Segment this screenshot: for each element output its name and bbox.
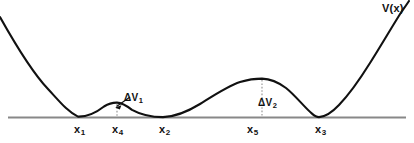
tick-subscript-x4: 4 <box>118 128 123 137</box>
axis-label-vx: V(x) <box>382 3 404 14</box>
axis-tick-label-x1: x1 <box>74 124 85 137</box>
axis-tick-label-x5: x5 <box>247 124 258 137</box>
barrier-subscript-dv1: 1 <box>138 96 143 105</box>
tick-subscript-x1: 1 <box>80 128 85 137</box>
tick-subscript-x2: 2 <box>165 128 170 137</box>
potential-curve-plot <box>0 0 414 143</box>
axis-tick-label-x2: x2 <box>159 124 170 137</box>
tick-subscript-x5: 5 <box>253 128 258 137</box>
axis-tick-label-x4: x4 <box>112 124 123 137</box>
axis-tick-label-x3: x3 <box>315 124 326 137</box>
tick-subscript-x3: 3 <box>321 128 326 137</box>
potential-energy-figure: V(x) ΔV1 ΔV2 x1 x4 x2 x5 x3 <box>0 0 414 143</box>
barrier-label-dv2: ΔV2 <box>258 98 277 110</box>
barrier-label-dv1: ΔV1 <box>124 93 143 105</box>
barrier-subscript-dv2: 2 <box>272 101 277 110</box>
potential-curve-path <box>0 1 409 117</box>
